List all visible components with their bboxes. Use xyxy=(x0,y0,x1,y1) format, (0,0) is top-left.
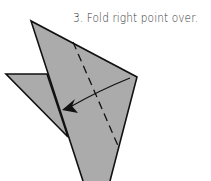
origami-diagram xyxy=(0,0,211,181)
step-instruction: 3. Fold right point over. xyxy=(73,11,198,25)
origami-figure xyxy=(0,0,211,181)
